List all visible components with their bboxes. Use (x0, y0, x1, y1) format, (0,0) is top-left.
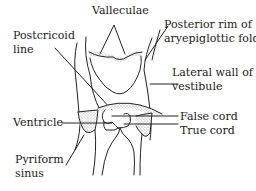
label-valleculae: Valleculae (92, 4, 149, 17)
larynx-diagram: Valleculae Postcricoid line Posterior ri… (0, 0, 256, 191)
label-postcricoid-line-2: line (13, 43, 34, 56)
label-pyriform-sinus-1: Pyriform (15, 153, 64, 166)
label-lateral-wall-1: Lateral wall of (172, 66, 253, 79)
label-lateral-wall-2: vestibule (172, 80, 222, 93)
label-true-cord: True cord (180, 124, 235, 137)
label-posterior-rim-1: Posterior rim of (164, 18, 252, 31)
label-ventricle: Ventricle (13, 116, 63, 129)
label-pyriform-sinus-2: sinus (15, 167, 44, 180)
label-false-cord: False cord (180, 110, 238, 123)
label-posterior-rim-2: aryepiglottic fold (164, 32, 256, 45)
label-postcricoid-line-1: Postcricoid (13, 29, 75, 42)
